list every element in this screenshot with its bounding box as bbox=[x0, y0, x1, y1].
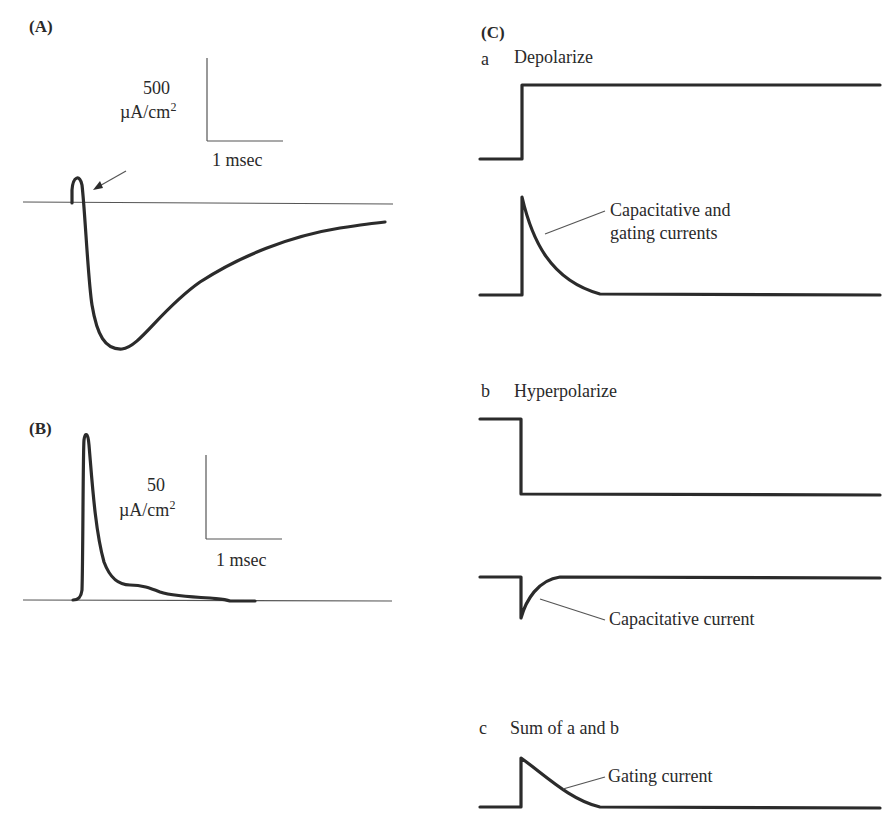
panel-c-a-title: Depolarize bbox=[514, 48, 593, 66]
panel-c-a-letter: a bbox=[481, 50, 489, 68]
hyperpolarize-annotation-leader bbox=[540, 599, 605, 620]
panel-a-label: (A) bbox=[29, 18, 53, 35]
panel-c-c-letter: c bbox=[479, 719, 487, 737]
panel-c-label: (C) bbox=[481, 24, 505, 41]
depolarize-annotation-leader bbox=[545, 211, 605, 234]
panel-c-c-annotation: Gating current bbox=[608, 767, 712, 785]
panel-c-a-graphics bbox=[480, 85, 880, 295]
unit-text: µA/cm bbox=[120, 102, 170, 122]
figure-canvas bbox=[0, 0, 895, 831]
unit-superscript: 2 bbox=[169, 498, 175, 512]
panel-a-baseline bbox=[23, 202, 393, 204]
panel-b-label: (B) bbox=[29, 420, 52, 437]
panel-c-b-letter: b bbox=[481, 382, 490, 400]
panel-b-scale-y-unit: µA/cm2 bbox=[119, 499, 175, 519]
panel-c-b-graphics bbox=[480, 419, 880, 620]
unit-text: µA/cm bbox=[119, 500, 169, 520]
panel-a-graphics bbox=[23, 58, 393, 349]
panel-b-scale-y-value: 50 bbox=[147, 476, 165, 494]
panel-b-graphics bbox=[23, 435, 392, 601]
panel-a-scale-x-label: 1 msec bbox=[212, 151, 262, 169]
panel-a-scale-y-value: 500 bbox=[143, 79, 170, 97]
hyperpolarize-voltage-step bbox=[480, 419, 880, 495]
panel-a-scale-y-unit: µA/cm2 bbox=[120, 101, 176, 121]
arrow-icon bbox=[93, 181, 103, 190]
panel-c-c-title: Sum of a and b bbox=[510, 719, 619, 737]
panel-c-b-title: Hyperpolarize bbox=[514, 382, 617, 400]
gating-annotation-leader bbox=[563, 777, 605, 789]
unit-superscript: 2 bbox=[170, 100, 176, 114]
depolarize-voltage-step bbox=[480, 85, 880, 159]
panel-c-b-annotation: Capacitative current bbox=[609, 610, 754, 628]
panel-b-scale-x-label: 1 msec bbox=[216, 551, 266, 569]
panel-c-a-annotation-line1: Capacitative and bbox=[610, 201, 730, 219]
panel-c-a-annotation-line2: gating currents bbox=[610, 224, 717, 242]
